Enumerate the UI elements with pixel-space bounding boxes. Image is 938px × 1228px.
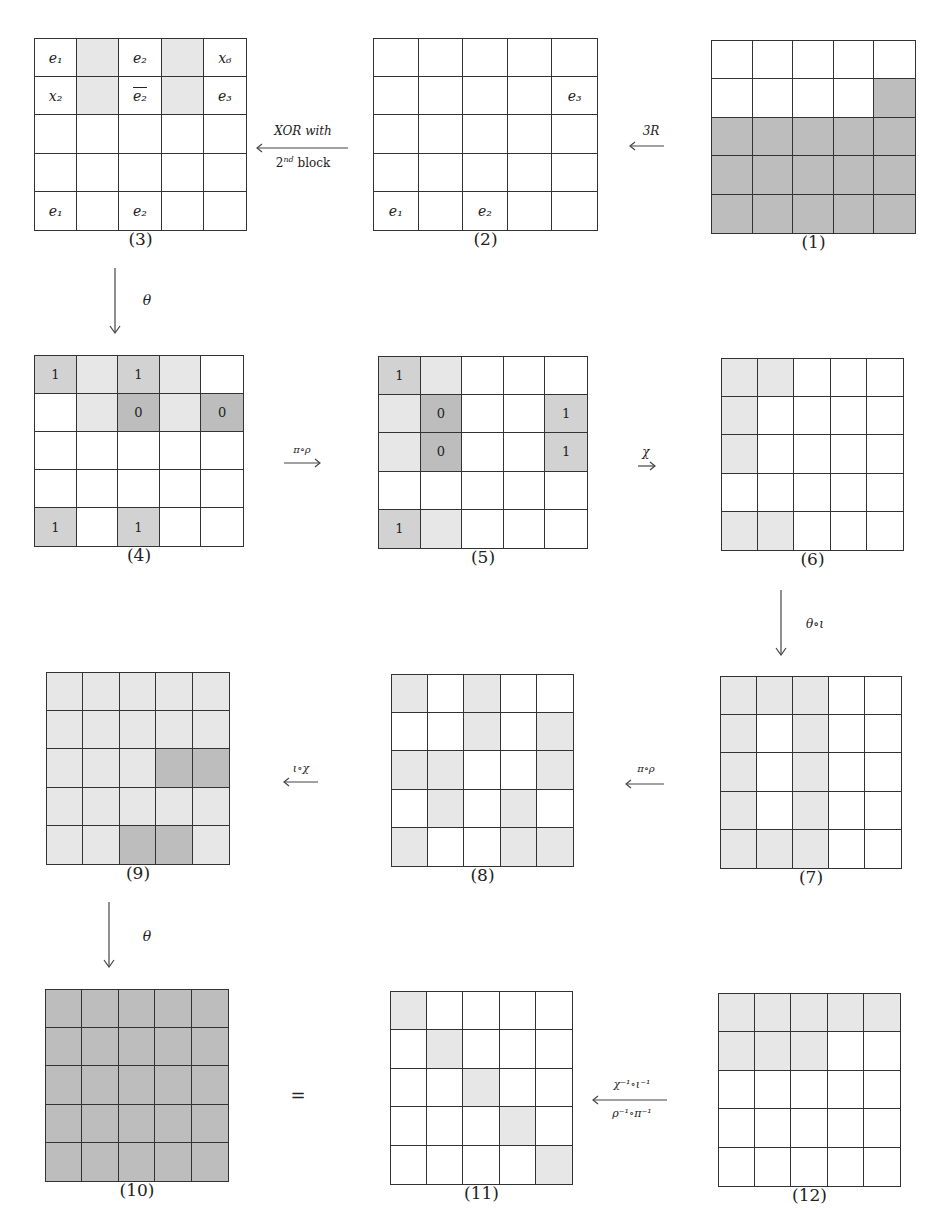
grid-cell [391, 1069, 427, 1107]
grid-caption-7: (7) [771, 867, 851, 887]
arrow-label-theta-iota: θ∘ι [795, 617, 835, 631]
grid-cell [162, 77, 204, 115]
grid-cell [834, 41, 875, 79]
grid-cell [391, 1107, 427, 1145]
grid-cell [192, 1143, 228, 1181]
grid-cell [160, 394, 202, 432]
grid-cell [501, 713, 537, 751]
grid-cell: 1 [379, 357, 421, 395]
grid-cell [201, 356, 243, 394]
arrow-left-pi-rho [624, 778, 666, 790]
grid-cell [829, 715, 865, 753]
grid-cell [464, 675, 500, 713]
arrow-label-pi-rho-1: π∘ρ [282, 444, 322, 455]
grid-cell [722, 512, 758, 550]
grid-cell [552, 192, 597, 230]
grid-cell [757, 715, 793, 753]
grid-cell [77, 432, 119, 470]
grid-cell [462, 472, 504, 510]
grid-cell [193, 788, 229, 826]
grid-cell [379, 395, 421, 433]
grid-cell [156, 749, 192, 787]
grid-cell [537, 790, 573, 828]
grid-cell [463, 992, 499, 1030]
grid-cell [500, 1030, 536, 1068]
grid-cell [758, 397, 794, 435]
grid-cell [156, 711, 192, 749]
grid-cell [828, 1109, 864, 1147]
grid-cell [828, 1148, 864, 1186]
grid-cell [46, 1105, 82, 1143]
grid-cell [793, 79, 834, 117]
grid-cell [834, 156, 875, 194]
grid-cell [755, 1148, 791, 1186]
grid-cell [193, 673, 229, 711]
grid-cell: x₂ [35, 77, 77, 115]
grid-cell [82, 1105, 118, 1143]
grid-cell [419, 77, 464, 115]
state-grid-3: e₁e₂x₆x₂e₂e₃e₁e₂ [34, 38, 247, 231]
arrow-right-chi [636, 460, 658, 472]
grid-caption-5: (5) [443, 547, 523, 567]
grid-cell [829, 677, 865, 715]
grid-cell [865, 715, 901, 753]
grid-cell [501, 675, 537, 713]
grid-cell [119, 1066, 155, 1104]
grid-cell [47, 673, 83, 711]
grid-cell [508, 39, 553, 77]
arrow-down-theta-iota [774, 588, 788, 658]
grid-caption-8: (8) [443, 865, 523, 885]
grid-cell [374, 154, 419, 192]
grid-cell [162, 192, 204, 230]
grid-cell [874, 41, 915, 79]
grid-cell [35, 432, 77, 470]
grid-cell [867, 512, 903, 550]
grid-cell [755, 1071, 791, 1109]
grid-cell [719, 1148, 755, 1186]
grid-cell [552, 39, 597, 77]
arrow-right-pi-rho [282, 457, 324, 469]
grid-cell [428, 713, 464, 751]
grid-cell [753, 41, 794, 79]
grid-cell [504, 510, 546, 548]
grid-cell [794, 359, 830, 397]
grid-cell [83, 711, 119, 749]
grid-cell [119, 1105, 155, 1143]
grid-cell [757, 677, 793, 715]
grid-cell [793, 753, 829, 791]
grid-cell [421, 357, 463, 395]
grid-cell [722, 474, 758, 512]
grid-cell [160, 508, 202, 546]
grid-cell [462, 357, 504, 395]
grid-cell [874, 118, 915, 156]
arrow-label-3R: 3R [636, 124, 666, 138]
grid-cell [793, 792, 829, 830]
grid-cell [831, 359, 867, 397]
grid-cell [77, 192, 119, 230]
grid-cell [537, 675, 573, 713]
arrow-label-chi: χ [638, 445, 654, 459]
arrow-label-inverse-top: χ⁻¹∘ι⁻¹ [596, 1078, 668, 1091]
grid-cell [829, 830, 865, 868]
grid-cell [201, 432, 243, 470]
grid-cell [77, 154, 119, 192]
grid-cell: 1 [545, 395, 587, 433]
grid-cell [428, 751, 464, 789]
grid-cell [82, 1143, 118, 1181]
grid-cell [118, 432, 160, 470]
state-grid-6 [721, 358, 904, 551]
grid-cell [829, 792, 865, 830]
grid-cell: 1 [35, 508, 77, 546]
grid-cell [545, 357, 587, 395]
state-grid-5: 101011 [378, 356, 588, 549]
grid-cell [793, 830, 829, 868]
grid-cell [118, 470, 160, 508]
grid-caption-1: (1) [774, 232, 854, 252]
grid-cell [758, 359, 794, 397]
grid-cell [508, 154, 553, 192]
grid-cell [721, 792, 757, 830]
grid-cell [755, 994, 791, 1032]
grid-cell [793, 156, 834, 194]
grid-cell [545, 472, 587, 510]
grid-cell [428, 828, 464, 866]
